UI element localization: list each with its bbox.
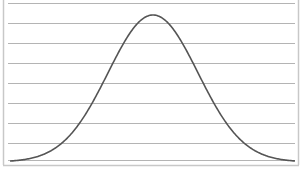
bell-curve-chart — [0, 0, 302, 173]
bell-curve-line — [10, 15, 295, 161]
gridlines — [8, 4, 295, 161]
chart-canvas — [0, 0, 302, 173]
